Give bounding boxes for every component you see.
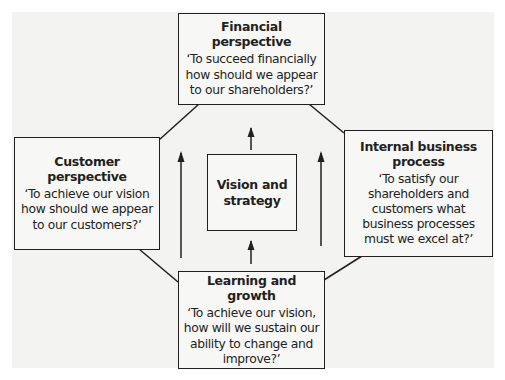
arrow-up-icon bbox=[248, 127, 255, 150]
connector-customer-learning bbox=[139, 249, 178, 282]
internal-business-process-title: Internal business process bbox=[349, 140, 488, 169]
connector-financial-customer bbox=[159, 104, 199, 140]
financial-perspective-title: Financial perspective bbox=[183, 19, 320, 49]
learning-and-growth-title: Learning and growth bbox=[183, 273, 320, 303]
customer-perspective-box: Customer perspective ‘To achieve our vis… bbox=[14, 137, 160, 250]
arrow-up-icon bbox=[318, 151, 325, 246]
arrow-up-icon bbox=[178, 151, 185, 258]
vision-and-strategy-title: Vision and strategy bbox=[208, 177, 296, 209]
connector-financial-internal bbox=[309, 104, 344, 133]
financial-perspective-box: Financial perspective ‘To succeed financ… bbox=[178, 13, 325, 105]
customer-perspective-title: Customer perspective bbox=[19, 154, 155, 184]
vision-and-strategy-box: Vision and strategy bbox=[207, 154, 297, 231]
learning-and-growth-box: Learning and growth ‘To achieve our visi… bbox=[178, 271, 325, 369]
financial-perspective-question: ‘To succeed financially how should we ap… bbox=[183, 52, 320, 99]
arrow-up-icon bbox=[248, 240, 255, 264]
customer-perspective-question: ‘To achieve our vision how should we app… bbox=[19, 187, 155, 234]
internal-business-process-question: ‘To satisfy our shareholders and custome… bbox=[349, 172, 488, 247]
connector-internal-learning bbox=[324, 256, 362, 280]
internal-business-process-box: Internal business process ‘To satisfy ou… bbox=[344, 130, 493, 257]
learning-and-growth-question: ‘To achieve our vision, how will we sust… bbox=[183, 306, 320, 368]
